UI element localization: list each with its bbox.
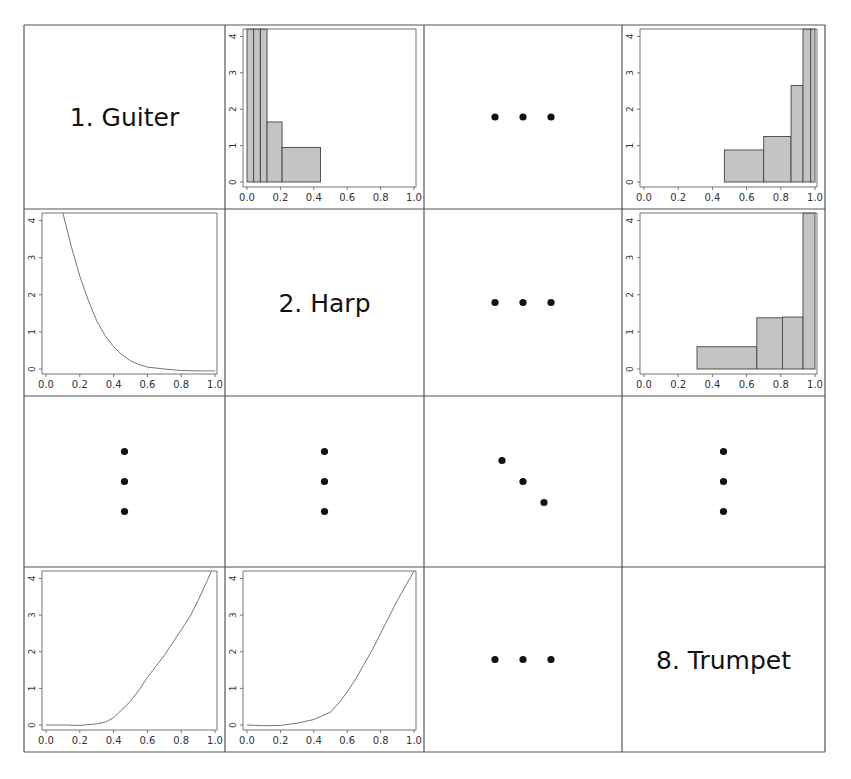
y-tick-label: 4	[27, 575, 37, 581]
density-curve	[247, 571, 414, 726]
x-tick-label: 0.8	[173, 735, 189, 746]
cell-r3-c0-density: 012340.00.20.40.60.81.0	[27, 571, 223, 746]
x-tick-label: 0.8	[173, 379, 189, 390]
x-tick-label: 0.2	[72, 735, 88, 746]
x-tick-label: 0.2	[272, 192, 288, 203]
y-tick-label: 4	[228, 33, 238, 39]
histogram-bar	[803, 29, 811, 182]
histogram-bar	[791, 86, 803, 182]
cell-r2-c3-ellipsis-vertical	[720, 448, 727, 515]
x-tick-label: 1.0	[807, 379, 823, 390]
cell-r3-c2-ellipsis-horizontal	[491, 656, 554, 663]
plot-axes: 012340.00.20.40.60.81.0	[228, 571, 422, 746]
cell-r1-c2-ellipsis-horizontal	[491, 299, 554, 306]
x-tick-label: 1.0	[807, 192, 823, 203]
y-tick-label: 4	[625, 217, 635, 223]
y-tick-label: 2	[228, 106, 238, 112]
cell-r2-c0-ellipsis-vertical	[121, 448, 128, 515]
x-tick-label: 0.6	[139, 735, 155, 746]
y-tick-label: 2	[625, 106, 635, 112]
x-tick-label: 0.4	[704, 192, 720, 203]
y-tick-label: 2	[27, 292, 37, 298]
histogram-bar	[757, 318, 783, 369]
y-tick-label: 3	[27, 255, 37, 261]
density-curve	[46, 571, 212, 725]
x-tick-label: 0.4	[106, 379, 122, 390]
x-tick-label: 0.2	[670, 379, 686, 390]
y-tick-label: 3	[228, 612, 238, 618]
x-tick-label: 0.4	[306, 735, 322, 746]
cell-r3-c1-density: 012340.00.20.40.60.81.0	[228, 571, 422, 746]
cell-r0-c2-ellipsis-horizontal	[491, 113, 554, 120]
histogram-bar	[254, 29, 261, 182]
cell-r0-c3-histogram: 012340.00.20.40.60.81.0	[625, 29, 823, 203]
variable-label: 2. Harp	[278, 289, 370, 318]
histogram-bar	[697, 347, 757, 369]
y-tick-label: 3	[625, 70, 635, 76]
x-tick-label: 0.0	[38, 379, 54, 390]
y-tick-label: 0	[27, 722, 37, 728]
x-tick-label: 0.0	[239, 192, 255, 203]
y-tick-label: 1	[228, 143, 238, 149]
x-tick-label: 1.0	[406, 735, 422, 746]
ellipsis-icon	[491, 656, 554, 663]
y-tick-label: 3	[27, 612, 37, 618]
histogram-bar	[282, 147, 320, 182]
x-tick-label: 0.6	[339, 735, 355, 746]
ellipsis-icon	[491, 299, 554, 306]
x-tick-label: 0.4	[704, 379, 720, 390]
y-tick-label: 1	[27, 686, 37, 692]
x-tick-label: 0.4	[106, 735, 122, 746]
x-tick-label: 0.4	[306, 192, 322, 203]
x-tick-label: 0.2	[670, 192, 686, 203]
x-tick-label: 0.8	[773, 379, 789, 390]
y-tick-label: 0	[228, 179, 238, 185]
x-tick-label: 0.0	[239, 735, 255, 746]
cell-r1-c1-label: 2. Harp	[278, 289, 370, 318]
x-tick-label: 1.0	[406, 192, 422, 203]
y-tick-label: 0	[625, 366, 635, 372]
y-tick-label: 1	[625, 329, 635, 335]
cell-r3-c3-label: 8. Trumpet	[656, 646, 791, 675]
y-tick-label: 1	[625, 143, 635, 149]
histogram-bars	[247, 29, 320, 182]
histogram-bar	[803, 213, 815, 369]
y-tick-label: 4	[228, 575, 238, 581]
plot-axes: 012340.00.20.40.60.81.0	[27, 213, 223, 390]
histogram-bar	[260, 29, 267, 182]
ellipsis-icon	[498, 457, 547, 506]
y-tick-label: 2	[228, 649, 238, 655]
variable-label: 8. Trumpet	[656, 646, 791, 675]
histogram-bar	[811, 29, 815, 182]
cell-r2-c2-ellipsis-diagonal	[498, 457, 547, 506]
y-tick-label: 0	[625, 179, 635, 185]
ellipsis-icon	[121, 448, 128, 515]
x-tick-label: 0.8	[373, 735, 389, 746]
y-tick-label: 2	[625, 292, 635, 298]
x-tick-label: 1.0	[207, 379, 223, 390]
y-tick-label: 3	[228, 70, 238, 76]
histogram-bar	[267, 122, 282, 182]
x-tick-label: 1.0	[207, 735, 223, 746]
y-tick-label: 4	[27, 217, 37, 223]
cell-r1-c0-density: 012340.00.20.40.60.81.0	[27, 213, 223, 390]
y-tick-label: 0	[228, 722, 238, 728]
histogram-bars	[724, 29, 815, 182]
histogram-bar	[783, 317, 804, 369]
x-tick-label: 0.6	[739, 192, 755, 203]
cell-r0-c1-histogram: 012340.00.20.40.60.81.0	[228, 29, 422, 203]
cell-r2-c1-ellipsis-vertical	[321, 448, 328, 515]
x-tick-label: 0.0	[38, 735, 54, 746]
histogram-bar	[764, 137, 791, 182]
y-tick-label: 1	[27, 329, 37, 335]
x-tick-label: 0.8	[373, 192, 389, 203]
y-tick-label: 1	[228, 686, 238, 692]
x-tick-label: 0.6	[139, 379, 155, 390]
x-tick-label: 0.6	[739, 379, 755, 390]
x-tick-label: 0.0	[636, 192, 652, 203]
cell-r1-c3-histogram: 012340.00.20.40.60.81.0	[625, 213, 823, 390]
density-curve	[63, 213, 215, 371]
ellipsis-icon	[720, 448, 727, 515]
y-tick-label: 0	[27, 366, 37, 372]
x-tick-label: 0.6	[339, 192, 355, 203]
